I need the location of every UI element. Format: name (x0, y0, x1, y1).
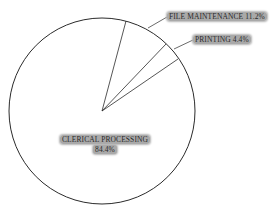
label-printing-value: 4.4% (233, 35, 249, 44)
label-clerical-processing: CLERICAL PROCESSING 84.4% (60, 135, 150, 154)
leader-line-file-maintenance (148, 17, 167, 28)
label-file-maintenance: FILE MAINTENANCE 11.2% (167, 12, 267, 21)
label-printing: PRINTING 4.4% (193, 35, 251, 44)
label-clerical-processing-value: 84.4% (93, 145, 117, 154)
leader-line-printing (174, 40, 193, 49)
label-file-maintenance-name: FILE MAINTENANCE (169, 12, 243, 21)
pie-chart (0, 0, 277, 220)
label-file-maintenance-value: 11.2% (245, 12, 265, 21)
label-clerical-processing-name: CLERICAL PROCESSING (60, 135, 150, 144)
label-printing-name: PRINTING (195, 35, 231, 44)
